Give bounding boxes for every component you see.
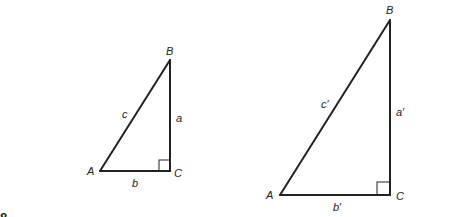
side-label-c-small: c xyxy=(122,108,128,120)
side-label-a-large: a′ xyxy=(396,106,405,118)
vertex-label-c-large: C xyxy=(396,190,404,202)
side-label-b-large: b′ xyxy=(333,201,342,213)
similar-triangles-diagram: A B C c a b A B C c′ a′ b′ 8 xyxy=(0,0,470,217)
right-angle-marker-small xyxy=(159,160,170,171)
side-c-large xyxy=(280,20,390,195)
vertex-label-a-large: A xyxy=(265,189,273,201)
vertex-label-b-small: B xyxy=(166,45,173,57)
triangle-small: A B C c a b xyxy=(86,45,182,189)
side-c-small xyxy=(100,60,170,171)
vertex-label-b-large: B xyxy=(386,4,393,16)
side-label-c-large: c′ xyxy=(321,98,330,110)
right-angle-marker-large xyxy=(377,182,390,195)
vertex-label-a-small: A xyxy=(86,165,94,177)
triangle-large: A B C c′ a′ b′ xyxy=(265,4,405,213)
figure-number: 8 xyxy=(0,210,7,217)
side-label-b-small: b xyxy=(132,177,138,189)
vertex-label-c-small: C xyxy=(174,167,182,179)
side-label-a-small: a xyxy=(176,112,182,124)
